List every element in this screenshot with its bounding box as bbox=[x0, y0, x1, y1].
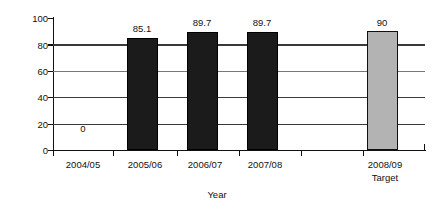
x-tick-mark-4 bbox=[301, 150, 302, 156]
bar-chart: Percentage of Patients 100 80 60 40 20 0… bbox=[0, 0, 434, 213]
bar-value-label-2005-06: 85.1 bbox=[119, 24, 165, 34]
y-tick-label-100: 100 bbox=[22, 13, 48, 24]
x-category-label: 2005/06 bbox=[128, 159, 162, 170]
x-category-2008-09-target[interactable]: 2008/09 Target bbox=[349, 159, 421, 184]
y-tick-label-80: 80 bbox=[22, 40, 48, 51]
x-tick-mark-3 bbox=[239, 150, 240, 156]
y-tick-label-40: 40 bbox=[22, 92, 48, 103]
x-category-label: 2008/09 bbox=[368, 159, 402, 170]
x-tick-mark-5 bbox=[363, 150, 364, 156]
x-category-2007-08[interactable]: 2007/08 bbox=[229, 159, 301, 172]
bar-value-label-2004-05: 0 bbox=[60, 123, 106, 134]
x-category-label: 2006/07 bbox=[188, 159, 222, 170]
bar-2005-06[interactable] bbox=[127, 38, 158, 150]
bar-value-label-2008-09-target: 90 bbox=[359, 18, 405, 28]
y-tick-label-20: 20 bbox=[22, 119, 48, 130]
bar-value-label-2007-08: 89.7 bbox=[239, 18, 285, 28]
x-category-sublabel: Target bbox=[349, 172, 421, 185]
bar-2006-07[interactable] bbox=[187, 32, 218, 150]
x-category-label: 2004/05 bbox=[66, 159, 100, 170]
bar-2007-08[interactable] bbox=[247, 32, 278, 150]
bar-2008-09-target[interactable] bbox=[367, 31, 398, 150]
x-tick-mark-2 bbox=[177, 150, 178, 156]
x-tick-mark-0 bbox=[53, 150, 54, 156]
x-axis-title: Year bbox=[0, 189, 434, 200]
x-category-label: 2007/08 bbox=[248, 159, 282, 170]
y-tick-label-0: 0 bbox=[22, 145, 48, 156]
y-tick-label-60: 60 bbox=[22, 66, 48, 77]
bar-value-label-2006-07: 89.7 bbox=[179, 18, 225, 28]
plot-area: 0 85.1 89.7 89.7 90 bbox=[53, 18, 425, 150]
x-tick-mark-1 bbox=[113, 150, 114, 156]
